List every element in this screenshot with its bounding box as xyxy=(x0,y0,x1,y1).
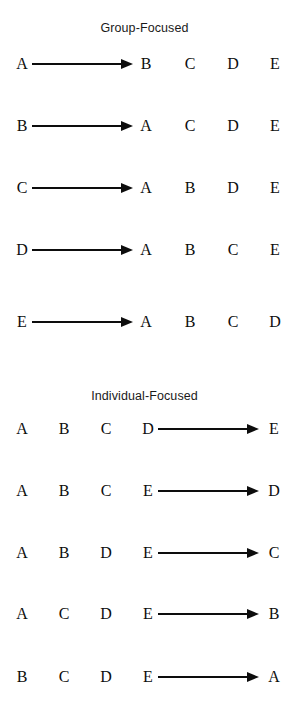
arrow-right-icon xyxy=(158,419,259,439)
peer-letter: B xyxy=(57,481,71,501)
diagram-canvas: Group-Focused A B C D E B A C D E xyxy=(0,0,289,707)
peer-letter: B xyxy=(15,667,29,687)
target-letter: C xyxy=(267,543,281,563)
peer-letter: B xyxy=(57,419,71,439)
peer-letter: C xyxy=(226,312,240,332)
diagram-row: C A B D E xyxy=(0,178,289,198)
peer-letter: C xyxy=(99,481,113,501)
peer-letter: D xyxy=(226,54,240,74)
peer-letter: A xyxy=(15,604,29,624)
arrow-right-icon xyxy=(158,667,259,687)
target-letter: B xyxy=(267,604,281,624)
target-letter: A xyxy=(139,240,153,260)
peer-letter: C xyxy=(183,116,197,136)
source-letter: C xyxy=(15,178,29,198)
diagram-row: E A B C D xyxy=(0,312,289,332)
diagram-row: A B C D E xyxy=(0,54,289,74)
source-letter: E xyxy=(15,312,29,332)
source-letter: E xyxy=(141,543,155,563)
section-individual-focused: Individual-Focused A B C D E A B C E D xyxy=(0,389,289,707)
source-letter: D xyxy=(141,419,155,439)
peer-letter: B xyxy=(183,312,197,332)
diagram-row: B A C D E xyxy=(0,116,289,136)
source-letter: E xyxy=(141,481,155,501)
diagram-row: A B C E D xyxy=(0,481,289,501)
arrow-right-icon xyxy=(32,312,133,332)
source-letter: D xyxy=(15,240,29,260)
peer-letter: E xyxy=(268,178,282,198)
peer-letter: A xyxy=(15,543,29,563)
source-letter: B xyxy=(15,116,29,136)
arrow-right-icon xyxy=(158,543,259,563)
source-letter: E xyxy=(141,667,155,687)
peer-letter: D xyxy=(226,178,240,198)
arrow-right-icon xyxy=(32,178,133,198)
diagram-row: D A B C E xyxy=(0,240,289,260)
peer-letter: C xyxy=(183,54,197,74)
peer-letter: D xyxy=(99,604,113,624)
section-group-focused: Group-Focused A B C D E B A C D E xyxy=(0,0,289,389)
target-letter: E xyxy=(267,419,281,439)
peer-letter: A xyxy=(15,481,29,501)
diagram-row: A C D E B xyxy=(0,604,289,624)
target-letter: A xyxy=(139,178,153,198)
arrow-right-icon xyxy=(32,116,133,136)
peer-letter: C xyxy=(57,604,71,624)
source-letter: A xyxy=(15,54,29,74)
arrow-right-icon xyxy=(158,481,259,501)
target-letter: A xyxy=(267,667,281,687)
peer-letter: D xyxy=(268,312,282,332)
section-title-individual-focused: Individual-Focused xyxy=(0,389,289,403)
target-letter: A xyxy=(139,312,153,332)
peer-letter: B xyxy=(57,543,71,563)
peer-letter: D xyxy=(99,543,113,563)
peer-letter: D xyxy=(99,667,113,687)
peer-letter: E xyxy=(268,116,282,136)
peer-letter: D xyxy=(226,116,240,136)
target-letter: D xyxy=(267,481,281,501)
arrow-right-icon xyxy=(32,54,133,74)
diagram-row: B C D E A xyxy=(0,667,289,687)
peer-letter: C xyxy=(57,667,71,687)
peer-letter: C xyxy=(99,419,113,439)
peer-letter: E xyxy=(268,240,282,260)
peer-letter: B xyxy=(183,240,197,260)
peer-letter: E xyxy=(268,54,282,74)
peer-letter: B xyxy=(183,178,197,198)
section-title-group-focused: Group-Focused xyxy=(0,21,289,35)
diagram-row: A B D E C xyxy=(0,543,289,563)
diagram-row: A B C D E xyxy=(0,419,289,439)
arrow-right-icon xyxy=(32,240,133,260)
arrow-right-icon xyxy=(158,604,259,624)
peer-letter: A xyxy=(15,419,29,439)
target-letter: A xyxy=(139,116,153,136)
source-letter: E xyxy=(141,604,155,624)
target-letter: B xyxy=(139,54,153,74)
peer-letter: C xyxy=(226,240,240,260)
